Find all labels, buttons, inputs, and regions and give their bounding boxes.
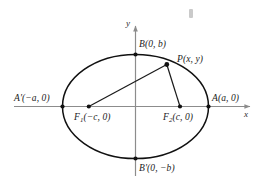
label-vertex-left: A'(−a, 0) <box>14 94 50 104</box>
point-a-prime <box>60 104 64 108</box>
label-covertex-bottom: B'(0, −b) <box>139 164 175 174</box>
label-vertex-right: A(a, 0) <box>212 94 239 104</box>
label-point-p: P(x, y) <box>177 55 203 65</box>
point-f1 <box>87 104 91 108</box>
label-focus-right: F2(c, 0) <box>163 113 193 123</box>
focal-radius-f1-p <box>89 65 167 107</box>
point-a <box>206 104 210 108</box>
y-axis-label: y <box>126 19 130 28</box>
x-axis-label: x <box>244 110 248 119</box>
ellipse-figure: x y A'(−a, 0) A(a, 0) B(0, b) B'(0, −b) … <box>0 0 266 186</box>
point-p <box>164 62 169 67</box>
label-focus-left: F1(−c, 0) <box>74 113 111 123</box>
label-covertex-top: B(0, b) <box>139 40 166 50</box>
scan-artifact-smudge <box>189 9 193 18</box>
focal-radius-f2-p <box>167 65 180 107</box>
point-b <box>133 52 137 56</box>
label-focus-left-coords: (−c, 0) <box>83 112 110 122</box>
point-f2 <box>178 104 182 108</box>
label-focus-right-coords: (c, 0) <box>172 112 193 122</box>
point-b-prime <box>133 156 137 160</box>
